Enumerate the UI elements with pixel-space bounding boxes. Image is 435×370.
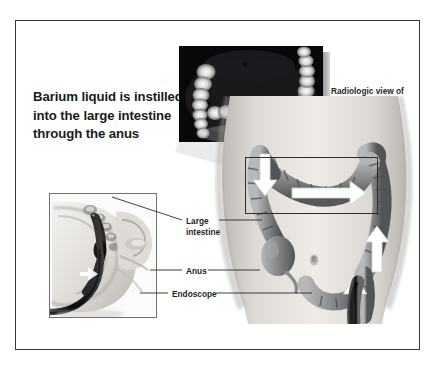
sagittal-pelvis-inset bbox=[49, 193, 157, 318]
annotation-endoscope: Endoscope bbox=[172, 289, 217, 300]
colon-detail-highlight bbox=[245, 157, 378, 214]
annotation-large-intestine: Large intestine bbox=[186, 216, 220, 238]
annotation-anus: Anus bbox=[186, 266, 207, 277]
annotation-large-intestine-line1: Large bbox=[186, 216, 220, 227]
headline-text: Barium liquid is instilled into the larg… bbox=[33, 88, 193, 144]
figure-root: Barium liquid is instilled into the larg… bbox=[0, 0, 435, 370]
annotation-large-intestine-line2: intestine bbox=[186, 227, 220, 238]
